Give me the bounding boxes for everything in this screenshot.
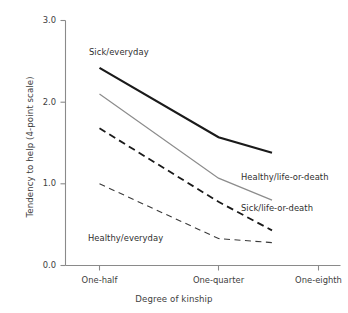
y-tick-label-0.0: 0.0 xyxy=(16,260,56,270)
series-label-sick-everyday: Sick/everyday xyxy=(89,47,149,57)
x-tick-label-one-half: One-half xyxy=(55,275,145,285)
x-axis-title: Degree of kinship xyxy=(0,294,348,304)
series-line-sick-everyday xyxy=(100,68,273,153)
series-label-healthy-life-or-death: Healthy/life-or-death xyxy=(241,172,329,182)
x-tick-label-one-eighth: One-eighth xyxy=(274,275,348,285)
series-label-healthy-everyday: Healthy/everyday xyxy=(88,233,163,243)
series-layer xyxy=(100,68,273,243)
series-line-healthy-life-or-death xyxy=(100,94,273,200)
y-axis-title: Tendency to help (4-point scale) xyxy=(25,57,35,237)
y-tick-label-3.0: 3.0 xyxy=(16,15,56,25)
series-label-sick-life-or-death: Sick/life-or-death xyxy=(241,203,313,213)
x-tick-label-one-quarter: One-quarter xyxy=(174,275,264,285)
y-tick-label-2.0: 2.0 xyxy=(16,97,56,107)
line-chart: Tendency to help (4-point scale) Degree … xyxy=(0,0,348,313)
y-tick-label-1.0: 1.0 xyxy=(16,178,56,188)
